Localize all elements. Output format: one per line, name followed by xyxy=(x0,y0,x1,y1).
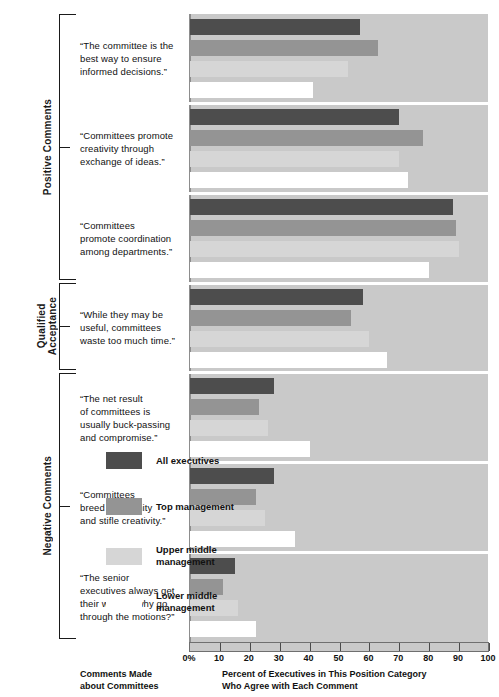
group-separator xyxy=(189,282,488,285)
legend-item-1: All executives xyxy=(106,452,219,469)
y-axis-caption: Comments Made about Committees xyxy=(80,668,190,692)
category-bracket-label-text: Qualified Acceptance xyxy=(36,297,58,355)
bar-4-group-1 xyxy=(190,82,313,98)
x-axis-tick xyxy=(220,643,221,651)
legend-swatch xyxy=(106,498,142,515)
x-axis-tick xyxy=(369,643,370,651)
comment-text: “The committee is the best way to ensure… xyxy=(80,39,173,78)
x-axis-tick xyxy=(280,643,281,651)
x-axis-tick xyxy=(489,643,490,651)
x-axis-tick-label: 90 xyxy=(453,653,463,663)
category-bracket-label: Negative Comments xyxy=(18,373,76,639)
comment-label-4: “While they may be useful, committees wa… xyxy=(80,283,184,373)
x-axis-tick xyxy=(399,643,400,651)
bar-2-group-5 xyxy=(190,399,259,415)
x-axis-tick-label: 70 xyxy=(393,653,403,663)
legend-label: Top management xyxy=(156,501,234,513)
category-bracket-label: Positive Comments xyxy=(18,14,76,280)
comment-label-1: “The committee is the best way to ensure… xyxy=(80,14,184,104)
chart-plot-area xyxy=(189,14,488,642)
bar-1-group-5 xyxy=(190,378,274,394)
group-separator xyxy=(189,371,488,374)
bar-3-group-4 xyxy=(190,331,369,347)
bar-1-group-2 xyxy=(190,109,399,125)
category-bracket-label: Qualified Acceptance xyxy=(18,283,76,370)
legend-item-2: Top management xyxy=(106,498,234,515)
legend-swatch xyxy=(106,548,142,565)
bar-1-group-6 xyxy=(190,468,274,484)
legend-label: All executives xyxy=(156,455,219,467)
x-axis-tick xyxy=(250,643,251,651)
bar-4-group-3 xyxy=(190,262,429,278)
x-axis-tick-labels: 0%102030405060708090100 xyxy=(179,653,499,667)
comment-text: “Committees promote coordination among d… xyxy=(80,219,172,258)
x-axis-tick xyxy=(340,643,341,651)
x-axis-tick-label: 60 xyxy=(363,653,373,663)
group-separator xyxy=(189,102,488,105)
legend-label: Upper middle management xyxy=(156,544,217,568)
x-axis-tick-label: 50 xyxy=(333,653,343,663)
bar-2-group-1 xyxy=(190,40,378,56)
x-axis xyxy=(189,642,489,652)
legend-label: Lower middle management xyxy=(156,590,217,614)
category-bracket-label-text: Negative Comments xyxy=(42,456,53,556)
bar-2-group-2 xyxy=(190,130,423,146)
bar-2-group-4 xyxy=(190,310,351,326)
x-axis-tick-label: 40 xyxy=(304,653,314,663)
x-axis-tick-label: 30 xyxy=(274,653,284,663)
category-bracket-2: Qualified Acceptance xyxy=(18,283,76,370)
bar-4-group-7 xyxy=(190,621,256,637)
comment-text: “Committees promote creativity through e… xyxy=(80,129,173,168)
bar-1-group-3 xyxy=(190,199,453,215)
legend-swatch xyxy=(106,452,142,469)
x-axis-caption: Percent of Executives in This Position C… xyxy=(222,668,492,692)
comment-label-2: “Committees promote creativity through e… xyxy=(80,104,184,194)
category-bracket-1: Positive Comments xyxy=(18,14,76,280)
bar-4-group-4 xyxy=(190,352,387,368)
legend-item-3: Upper middle management xyxy=(106,544,217,568)
x-axis-tick xyxy=(429,643,430,651)
category-bracket-column: Positive CommentsQualified AcceptanceNeg… xyxy=(18,14,76,642)
comment-text: “While they may be useful, committees wa… xyxy=(80,308,175,347)
x-axis-tick-label: 10 xyxy=(214,653,224,663)
comment-text: “The net result of committees is usually… xyxy=(80,392,170,444)
bar-1-group-1 xyxy=(190,19,360,35)
x-axis-tick-label: 80 xyxy=(423,653,433,663)
bar-3-group-3 xyxy=(190,241,459,257)
group-separator xyxy=(189,461,488,464)
x-axis-tick xyxy=(459,643,460,651)
bar-3-group-1 xyxy=(190,61,348,77)
bar-3-group-2 xyxy=(190,151,399,167)
bar-1-group-4 xyxy=(190,289,363,305)
x-axis-tick-label: 20 xyxy=(244,653,254,663)
group-separator xyxy=(189,192,488,195)
x-axis-tick-label: 0% xyxy=(182,653,195,663)
x-axis-tick-label: 100 xyxy=(480,653,495,663)
group-separator xyxy=(189,551,488,554)
bar-2-group-3 xyxy=(190,220,456,236)
category-bracket-label-text: Positive Comments xyxy=(42,99,53,195)
comment-label-5: “The net result of committees is usually… xyxy=(80,373,184,463)
category-bracket-3: Negative Comments xyxy=(18,373,76,639)
x-axis-tick xyxy=(310,643,311,651)
legend-swatch xyxy=(106,594,142,611)
bar-4-group-2 xyxy=(190,172,408,188)
legend-item-4: Lower middle management xyxy=(106,590,217,614)
bar-3-group-5 xyxy=(190,420,268,436)
comment-label-3: “Committees promote coordination among d… xyxy=(80,193,184,283)
